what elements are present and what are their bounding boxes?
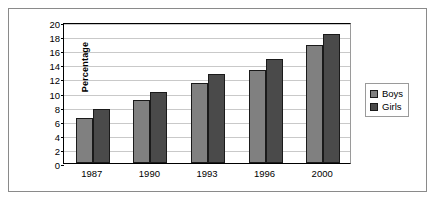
bar-boys-1987: [76, 118, 93, 163]
x-axis-tick-label: 1987: [63, 168, 121, 179]
bar-group: [133, 24, 167, 163]
legend-label: Girls: [382, 101, 402, 112]
bar-group: [76, 24, 110, 163]
y-axis-tick-label: 10: [34, 89, 60, 100]
y-axis-tick-label: 16: [34, 47, 60, 58]
x-axis-tick-label: 2000: [293, 168, 351, 179]
bars-layer: [64, 24, 350, 163]
y-axis-tick-label: 12: [34, 75, 60, 86]
x-axis-tick-label: 1990: [121, 168, 179, 179]
x-axis-tick-label: 1996: [236, 168, 294, 179]
x-axis-tick-label: 1993: [178, 168, 236, 179]
bar-group: [249, 24, 283, 163]
bar-group: [306, 24, 340, 163]
bar-boys-1993: [191, 83, 208, 163]
legend-item-boys: Boys: [370, 87, 403, 100]
y-axis-tick-label: 0: [34, 160, 60, 171]
plot-area: Percentage 02468101214161820: [63, 23, 351, 164]
y-axis-tick-label: 2: [34, 145, 60, 156]
chart-legend: BoysGirls: [365, 83, 409, 117]
legend-swatch-icon: [370, 103, 378, 111]
y-axis-tick-label: 18: [34, 33, 60, 44]
legend-label: Boys: [382, 88, 403, 99]
legend-swatch-icon: [370, 90, 378, 98]
y-axis-tick-label: 4: [34, 131, 60, 142]
y-axis-tick-label: 8: [34, 103, 60, 114]
bar-group: [191, 24, 225, 163]
bar-girls-1990: [150, 92, 167, 163]
chart-frame: Percentage 02468101214161820 19871990199…: [8, 8, 427, 192]
bar-girls-1987: [93, 109, 110, 163]
bar-girls-2000: [323, 34, 340, 163]
bar-girls-1996: [266, 59, 283, 163]
bar-boys-2000: [306, 45, 323, 163]
y-axis-tick-label: 14: [34, 61, 60, 72]
legend-item-girls: Girls: [370, 100, 403, 113]
y-axis-tick-mark: [61, 165, 64, 166]
bar-girls-1993: [208, 74, 225, 163]
y-axis-tick-label: 6: [34, 117, 60, 128]
y-axis-tick-label: 20: [34, 19, 60, 30]
bar-boys-1990: [133, 100, 150, 163]
bar-boys-1996: [249, 70, 266, 163]
